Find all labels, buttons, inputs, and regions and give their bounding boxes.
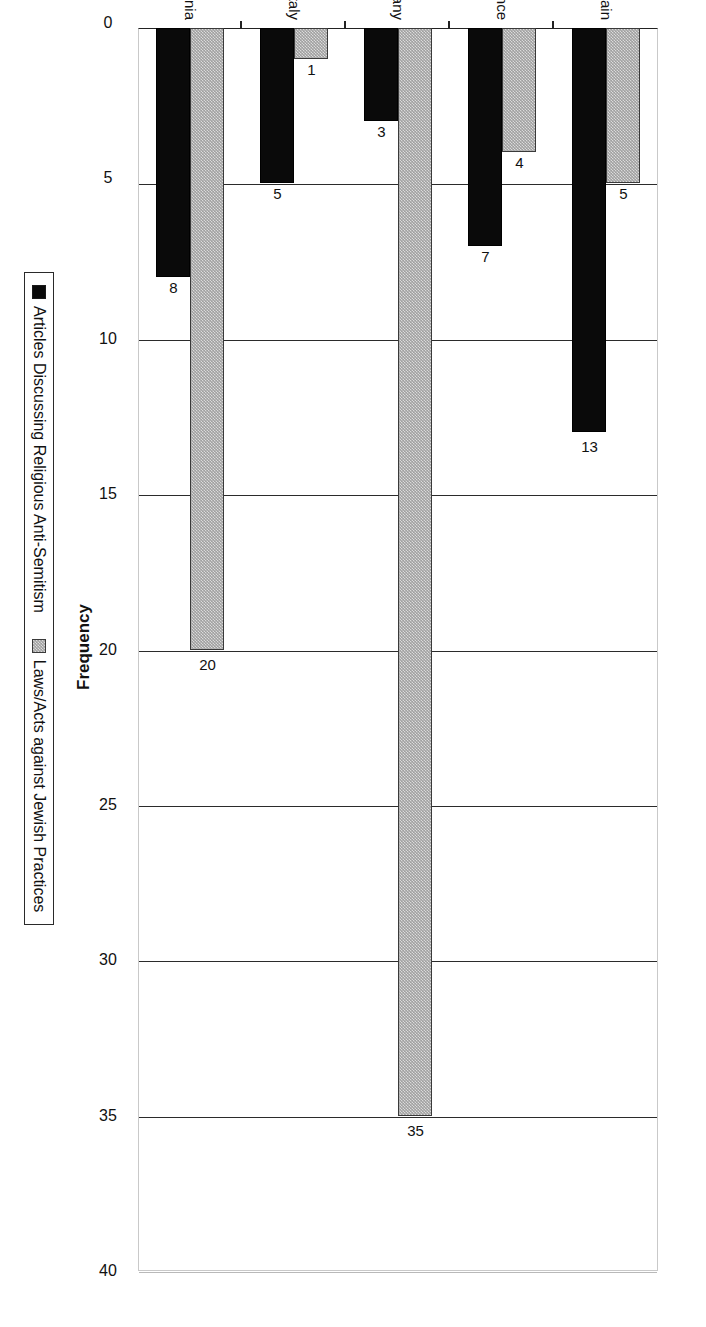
country-label-france: France <box>495 0 510 20</box>
frequency-tick-40: 40 <box>99 1263 117 1279</box>
value-label-black-italy: 5 <box>273 186 281 201</box>
country-axis-tick <box>241 21 243 28</box>
legend-swatch-gray-icon <box>32 639 46 653</box>
frequency-tick-15: 15 <box>99 486 117 502</box>
country-axis-tick <box>553 21 555 28</box>
frequency-tick-30: 30 <box>99 952 117 968</box>
bar-gray-germany <box>398 28 432 1116</box>
y-axis-title: Frequency <box>75 604 92 690</box>
value-label-gray-france: 4 <box>515 155 523 170</box>
value-label-gray-great-britain: 5 <box>619 186 627 201</box>
frequency-tick-20: 20 <box>99 641 117 657</box>
rotated-chart-canvas: 0510152025303540 Frequency Great Britain… <box>0 0 706 1327</box>
frequency-tick-5: 5 <box>104 171 113 187</box>
country-label-germany: Germany <box>391 0 406 20</box>
country-label-romania: Romania <box>183 0 198 20</box>
legend-label-0: Articles Discussing Religious Anti-Semit… <box>31 306 47 613</box>
bar-gray-italy <box>294 28 328 59</box>
legend-item-0: Articles Discussing Religious Anti-Semit… <box>31 285 47 613</box>
country-label-great-britain: Great Britain <box>599 0 614 20</box>
legend-label-1: Laws/Acts against Jewish Practices <box>31 660 47 913</box>
value-label-gray-germany: 35 <box>407 1122 424 1137</box>
legend-swatch-black-icon <box>32 285 46 299</box>
country-axis-tick <box>449 21 451 28</box>
value-label-gray-italy: 1 <box>307 62 315 77</box>
gridline-40 <box>139 1272 657 1273</box>
gridline-35 <box>139 1117 657 1118</box>
frequency-tick-10: 10 <box>99 331 117 347</box>
frequency-tick-0: 0 <box>104 15 113 31</box>
country-label-italy: Italy <box>287 0 302 20</box>
bar-black-france <box>468 28 502 246</box>
chart-area: 0510152025303540 Frequency Great Britain… <box>138 28 658 1271</box>
value-label-black-romania: 8 <box>169 279 177 294</box>
frequency-tick-35: 35 <box>99 1108 117 1124</box>
value-label-black-france: 7 <box>481 248 489 263</box>
value-label-black-germany: 3 <box>377 124 385 139</box>
value-label-gray-romania: 20 <box>199 656 216 671</box>
legend-item-1: Laws/Acts against Jewish Practices <box>31 639 47 913</box>
bar-black-great-britain <box>572 28 606 432</box>
bar-black-germany <box>364 28 398 121</box>
chart-legend: Articles Discussing Religious Anti-Semit… <box>24 272 54 925</box>
bar-gray-romania <box>190 28 224 650</box>
country-axis-tick <box>345 21 347 28</box>
value-label-black-great-britain: 13 <box>581 439 598 454</box>
bar-gray-france <box>502 28 536 152</box>
scanned-chart-page: 0510152025303540 Frequency Great Britain… <box>0 0 706 1327</box>
bar-black-italy <box>260 28 294 183</box>
frequency-tick-25: 25 <box>99 797 117 813</box>
bar-gray-great-britain <box>606 28 640 183</box>
bar-black-romania <box>156 28 190 277</box>
